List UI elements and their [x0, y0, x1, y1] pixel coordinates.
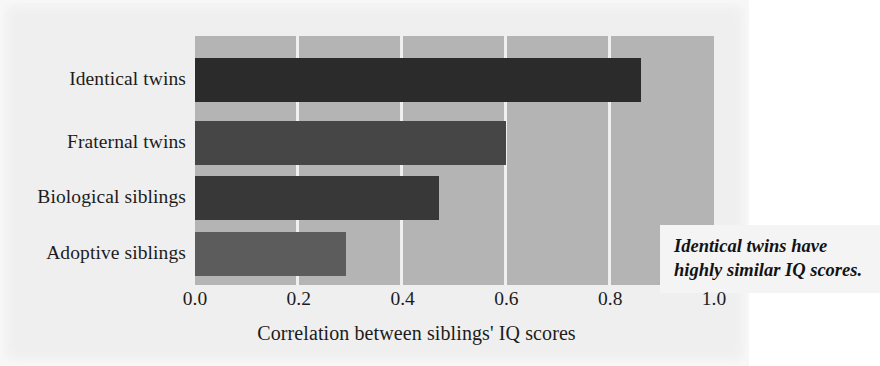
- y-axis-category-labels: Identical twins Fraternal twins Biologic…: [0, 36, 186, 285]
- y-axis-label-0: Identical twins: [1, 68, 186, 90]
- annotation-line-1: Identical twins have: [674, 235, 868, 259]
- x-tick-4: 0.8: [598, 288, 622, 310]
- x-tick-3: 0.6: [494, 288, 518, 310]
- x-axis-title: Correlation between siblings' IQ scores: [0, 322, 749, 345]
- y-axis-label-3: Adoptive siblings: [1, 242, 186, 264]
- y-axis-label-1: Fraternal twins: [1, 131, 186, 153]
- bar-adoptive-siblings: [195, 232, 346, 276]
- bar-identical-twins: [195, 58, 641, 102]
- x-axis-tick-labels: 0.0 0.2 0.4 0.6 0.8 1.0: [195, 288, 714, 318]
- y-axis-label-2: Biological siblings: [1, 186, 186, 208]
- plot-area: Identical twins have highly similar IQ s…: [195, 36, 714, 285]
- x-tick-0: 0.0: [183, 288, 207, 310]
- bar-biological-siblings: [195, 176, 439, 220]
- annotation-callout: Identical twins have highly similar IQ s…: [660, 225, 880, 293]
- x-tick-5: 1.0: [702, 288, 726, 310]
- bar-fraternal-twins: [195, 121, 506, 165]
- x-tick-2: 0.4: [390, 288, 414, 310]
- x-tick-1: 0.2: [287, 288, 311, 310]
- annotation-line-2: highly similar IQ scores.: [674, 259, 868, 283]
- x-axis-title-text: Correlation between siblings' IQ scores: [257, 322, 576, 344]
